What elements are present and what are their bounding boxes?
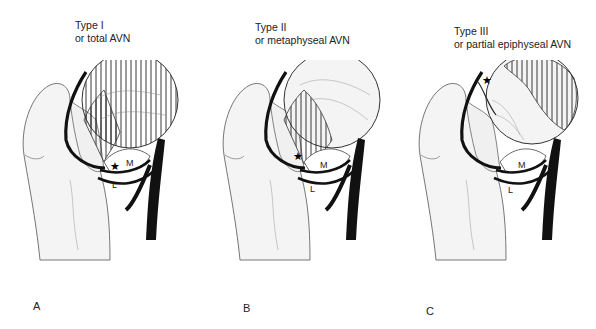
circumflex-artery — [346, 138, 365, 240]
star-marker: ★ — [110, 160, 120, 172]
panel-c-title-type: Type III — [454, 25, 571, 38]
panel-a: Type I or total AVN ★ M L A — [0, 0, 198, 329]
label-m: M — [518, 160, 526, 170]
femur-illustration-type-3: ★ M L — [396, 60, 594, 270]
panel-c-letter: C — [426, 305, 434, 317]
label-l: L — [112, 180, 117, 190]
panel-b-title-desc: or metaphyseal AVN — [255, 34, 350, 47]
panel-c-title: Type III or partial epiphyseal AVN — [454, 25, 571, 51]
panel-b-title-type: Type II — [255, 21, 350, 34]
panel-a-title-type: Type I — [75, 19, 130, 32]
panel-b: Type II or metaphyseal AVN ★ M L B — [200, 0, 398, 329]
panel-c: Type III or partial epiphyseal AVN ★ M L… — [396, 0, 594, 329]
panel-b-title: Type II or metaphyseal AVN — [255, 21, 350, 47]
star-marker: ★ — [482, 74, 492, 86]
panel-c-title-desc: or partial epiphyseal AVN — [454, 38, 571, 51]
label-m: M — [320, 160, 328, 170]
label-m: M — [126, 158, 134, 168]
panel-b-letter: B — [243, 302, 250, 314]
femur-illustration-type-2: ★ M L — [200, 60, 398, 270]
circumflex-artery — [542, 138, 561, 240]
star-marker: ★ — [293, 150, 303, 162]
label-l: L — [508, 185, 513, 195]
panel-a-letter: A — [33, 300, 40, 312]
label-l: L — [310, 184, 315, 194]
circumflex-artery — [146, 138, 165, 240]
panel-a-title-desc: or total AVN — [75, 32, 130, 45]
femur-illustration-type-1: ★ M L — [0, 60, 198, 270]
panel-a-title: Type I or total AVN — [75, 19, 130, 45]
